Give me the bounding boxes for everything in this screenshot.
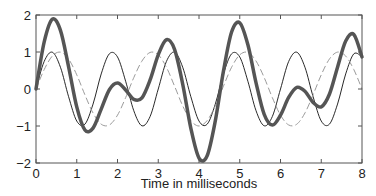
- y-tick-label: −1: [16, 119, 31, 134]
- x-tick-label: 8: [358, 166, 365, 181]
- x-tick-label: 0: [32, 166, 39, 181]
- x-tick-label: 6: [277, 166, 284, 181]
- y-tick-label: −2: [16, 156, 31, 171]
- plot-area: [36, 15, 362, 163]
- x-axis-label: Time in milliseconds: [141, 176, 258, 191]
- y-tick-label: 2: [24, 8, 31, 23]
- x-tick-label: 2: [114, 166, 121, 181]
- x-tick-label: 1: [73, 166, 80, 181]
- x-tick-label: 7: [318, 166, 325, 181]
- line-chart: 012345678210−1−2 Time in milliseconds: [0, 0, 376, 196]
- y-tick-label: 1: [24, 45, 31, 60]
- y-tick-label: 0: [24, 82, 31, 97]
